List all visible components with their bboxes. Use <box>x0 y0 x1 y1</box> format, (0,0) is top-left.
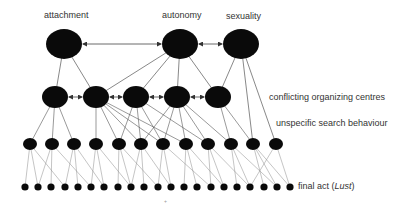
node-organizing-centre <box>123 86 149 108</box>
node-search-behaviour <box>45 138 59 150</box>
node-search-behaviour <box>246 138 260 150</box>
node-final-act <box>114 183 121 190</box>
node-final-act <box>100 183 107 190</box>
node-final-act <box>61 183 68 190</box>
node-final-act <box>180 183 187 190</box>
node-final-act <box>220 183 227 190</box>
edge-search-final <box>141 144 171 187</box>
motivation-hierarchy-diagram: + <box>0 0 413 208</box>
node-final-act <box>74 183 81 190</box>
label-autonomy: autonomy <box>162 10 202 20</box>
edge-search-final <box>91 144 96 187</box>
edge-search-final <box>131 144 141 187</box>
node-search-behaviour <box>89 138 103 150</box>
node-search-behaviour <box>179 138 193 150</box>
node-search-behaviour <box>269 138 283 150</box>
nodes <box>21 29 293 191</box>
edge-search-final <box>141 144 144 187</box>
edge-search-final <box>74 144 104 187</box>
label-attachment: attachment <box>44 10 89 20</box>
edge-search-final <box>52 144 91 187</box>
label-conflicting-organizing-centres: conflicting organizing centres <box>269 92 385 102</box>
node-search-behaviour <box>67 138 81 150</box>
node-final-act <box>286 183 293 190</box>
edge-search-final <box>276 144 290 187</box>
node-final-act <box>246 183 253 190</box>
edge-search-final <box>65 144 74 187</box>
final-act-suffix: ) <box>352 181 355 191</box>
label-final-act: final act (Lust) <box>298 181 355 191</box>
node-final-act <box>154 183 161 190</box>
node-final-act <box>127 183 134 190</box>
node-final-act <box>207 183 214 190</box>
node-search-behaviour <box>156 138 170 150</box>
edge-search-final <box>163 144 211 187</box>
node-organizing-centre <box>83 86 109 108</box>
node-search-behaviour <box>112 138 126 150</box>
edge-search-final <box>184 144 186 187</box>
edge-search-final <box>30 144 38 187</box>
node-organizing-centre <box>42 86 68 108</box>
node-final-act <box>34 183 41 190</box>
node-final-act <box>87 183 94 190</box>
node-search-behaviour <box>224 138 238 150</box>
node-sexuality <box>223 29 259 59</box>
edge-search-final <box>158 144 163 187</box>
node-final-act <box>47 183 54 190</box>
edge-search-final <box>118 144 119 187</box>
stray-mark: + <box>164 198 167 204</box>
edges <box>25 44 290 187</box>
node-final-act <box>260 183 267 190</box>
edge-search-final <box>74 144 78 187</box>
final-act-italic: Lust <box>335 181 352 191</box>
node-final-act <box>193 183 200 190</box>
node-final-act <box>167 183 174 190</box>
node-search-behaviour <box>201 138 215 150</box>
node-autonomy <box>162 29 198 59</box>
node-final-act <box>21 183 28 190</box>
edge-search-final <box>208 144 250 187</box>
node-organizing-centre <box>164 86 190 108</box>
node-final-act <box>233 183 240 190</box>
node-attachment <box>46 29 82 59</box>
label-unspecific-search-behaviour: unspecific search behaviour <box>276 118 388 128</box>
node-search-behaviour <box>23 138 37 150</box>
edge-search-final <box>163 144 171 187</box>
node-final-act <box>140 183 147 190</box>
label-sexuality: sexuality <box>226 11 261 21</box>
edge-search-final <box>30 144 65 187</box>
edge-search-final <box>38 144 52 187</box>
final-act-prefix: final act ( <box>298 181 335 191</box>
edge-search-final <box>51 144 52 187</box>
edge-search-final <box>253 144 277 187</box>
edge-top-search <box>241 44 253 144</box>
edge-search-final <box>96 144 104 187</box>
node-organizing-centre <box>205 86 231 108</box>
node-search-behaviour <box>134 138 148 150</box>
edge-search-final <box>96 144 131 187</box>
edge-search-final <box>25 144 30 187</box>
node-final-act <box>273 183 280 190</box>
